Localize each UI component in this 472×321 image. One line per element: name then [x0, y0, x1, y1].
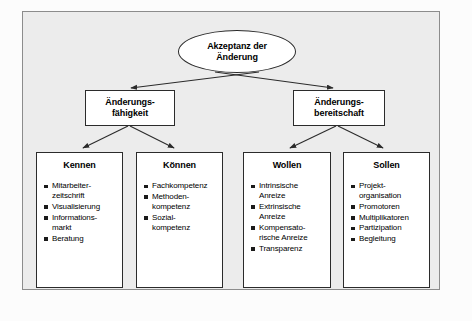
list-item-label: Sozial-kompetenz — [152, 213, 190, 232]
bullet-icon — [351, 216, 355, 220]
list-item-label: Partizipation — [359, 223, 401, 232]
node-kennen[interactable]: Kennen Mitarbeiter-zeitschrift Visualisi… — [36, 152, 123, 288]
node-kennen-list: Mitarbeiter-zeitschrift Visualisierung I… — [37, 170, 122, 244]
node-wollen-title: Wollen — [244, 160, 330, 170]
list-item: Multiplikatoren — [351, 213, 429, 223]
list-item-label: Kompensato-rische Anreize — [259, 223, 308, 242]
list-item: ExtrinsischeAnreize — [251, 202, 330, 222]
bullet-icon — [144, 216, 148, 220]
node-aenderungsbereitschaft-label: Änderungs- bereitschaft — [314, 97, 364, 119]
root-label-line2: Änderung — [207, 52, 267, 63]
list-item-label: Multiplikatoren — [359, 213, 409, 222]
node-wollen[interactable]: Wollen IntrinsischeAnreize ExtrinsischeA… — [243, 152, 331, 288]
node-aenderungsbereitschaft-line2: bereitschaft — [314, 108, 364, 119]
node-aenderungsfaehigkeit-label: Änderungs- fähigkeit — [105, 97, 155, 119]
connector-bereitschaft-to-sollen — [338, 126, 383, 148]
node-koennen[interactable]: Können Fachkompetenz Methoden-kompetenz … — [136, 152, 223, 288]
node-koennen-list: Fachkompetenz Methoden-kompetenz Sozial-… — [137, 170, 222, 233]
list-item: Promotoren — [351, 202, 429, 212]
list-item: IntrinsischeAnreize — [251, 181, 330, 201]
node-aenderungsbereitschaft[interactable]: Änderungs- bereitschaft — [293, 90, 385, 126]
list-item: Kompensato-rische Anreize — [251, 223, 330, 243]
connector-bereitschaft-to-wollen — [290, 126, 336, 148]
bullet-icon — [351, 205, 355, 209]
list-item: Beratung — [44, 234, 122, 244]
bullet-icon — [44, 216, 48, 220]
list-item-label: Begleitung — [359, 234, 396, 243]
list-item: Projekt-organisation — [351, 181, 429, 201]
node-akzeptanz-der-aenderung[interactable]: Akzeptanz der Änderung — [178, 30, 296, 73]
node-wollen-list: IntrinsischeAnreize ExtrinsischeAnreize … — [244, 170, 330, 254]
node-aenderungsfaehigkeit[interactable]: Änderungs- fähigkeit — [85, 90, 175, 126]
list-item: Fachkompetenz — [144, 181, 222, 191]
list-item: Sozial-kompetenz — [144, 213, 222, 233]
bullet-icon — [144, 185, 148, 189]
node-aenderungsfaehigkeit-line2: fähigkeit — [105, 108, 155, 119]
list-item: Informations-markt — [44, 213, 122, 233]
list-item-label: Projekt-organisation — [359, 181, 401, 200]
bullet-icon — [251, 247, 255, 251]
list-item: Mitarbeiter-zeitschrift — [44, 181, 122, 201]
bullet-icon — [251, 205, 255, 209]
list-item: Methoden-kompetenz — [144, 192, 222, 212]
list-item-label: IntrinsischeAnreize — [259, 181, 298, 200]
root-label: Akzeptanz der Änderung — [207, 41, 267, 63]
node-aenderungsbereitschaft-line1: Änderungs- — [314, 97, 364, 108]
bullet-icon — [351, 185, 355, 189]
list-item-label: Fachkompetenz — [152, 181, 207, 190]
root-label-line1: Akzeptanz der — [207, 41, 267, 52]
connector-faehigkeit-to-koennen — [130, 126, 174, 148]
node-sollen-list: Projekt-organisation Promotoren Multipli… — [344, 170, 429, 244]
bullet-icon — [44, 205, 48, 209]
list-item-label: ExtrinsischeAnreize — [259, 202, 301, 221]
bullet-icon — [351, 227, 355, 231]
bullet-icon — [251, 226, 255, 230]
connector-root-to-aenderungsbereitschaft — [215, 72, 333, 88]
node-aenderungsfaehigkeit-line1: Änderungs- — [105, 97, 155, 108]
list-item: Partizipation — [351, 223, 429, 233]
bullet-icon — [351, 238, 355, 242]
node-kennen-title: Kennen — [37, 160, 122, 170]
bullet-icon — [44, 237, 48, 241]
list-item: Transparenz — [251, 244, 330, 254]
list-item-label: Promotoren — [359, 202, 400, 211]
bullet-icon — [251, 185, 255, 189]
list-item-label: Informations-markt — [52, 213, 97, 232]
bullet-icon — [44, 185, 48, 189]
connector-root-to-aenderungsfaehigkeit — [131, 72, 259, 88]
bullet-icon — [144, 195, 148, 199]
list-item-label: Transparenz — [259, 244, 302, 253]
list-item-label: Methoden-kompetenz — [152, 192, 190, 211]
diagram-canvas: Akzeptanz der Änderung Änderungs- fähigk… — [0, 0, 472, 321]
node-sollen[interactable]: Sollen Projekt-organisation Promotoren M… — [343, 152, 430, 288]
list-item: Begleitung — [351, 234, 429, 244]
list-item-label: Beratung — [52, 234, 84, 243]
list-item-label: Visualisierung — [52, 202, 100, 211]
connector-faehigkeit-to-kennen — [83, 126, 128, 148]
node-koennen-title: Können — [137, 160, 222, 170]
node-sollen-title: Sollen — [344, 160, 429, 170]
list-item: Visualisierung — [44, 202, 122, 212]
list-item-label: Mitarbeiter-zeitschrift — [52, 181, 91, 200]
